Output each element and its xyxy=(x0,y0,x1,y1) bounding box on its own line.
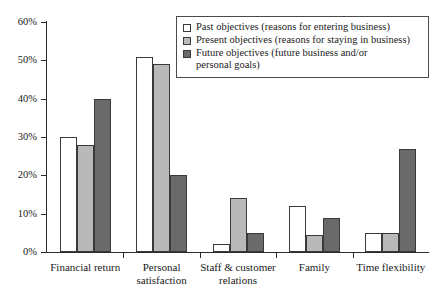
x-axis-category-label: Staff & customer relations xyxy=(200,261,276,287)
bar-group xyxy=(60,22,111,252)
legend-item: Future objectives (future business and/o… xyxy=(183,47,422,71)
y-axis-tick-label: 50% xyxy=(0,54,37,65)
legend-swatch-past-icon xyxy=(183,24,191,32)
x-axis-category-label: Personal satisfaction xyxy=(123,261,199,287)
x-axis-category-label: Time flexibility xyxy=(353,261,429,274)
bar-present xyxy=(230,198,247,252)
bar-future xyxy=(94,99,111,252)
y-axis-tick-label: 40% xyxy=(0,93,37,104)
legend-swatch-future-icon xyxy=(183,50,191,58)
y-axis-tick-label: 0% xyxy=(0,246,37,257)
y-axis-tick-label: 20% xyxy=(0,169,37,180)
bar-present xyxy=(153,64,170,252)
bar-future xyxy=(170,175,187,252)
bar-past xyxy=(213,244,230,252)
bar-future xyxy=(399,149,416,253)
legend: Past objectives (reasons for entering bu… xyxy=(176,16,429,78)
x-axis-tick-mark xyxy=(200,253,201,258)
y-axis-tick-label: 60% xyxy=(0,16,37,27)
legend-item: Past objectives (reasons for entering bu… xyxy=(183,21,422,33)
x-axis-tick-mark xyxy=(276,253,277,258)
bar-past xyxy=(289,206,306,252)
bar-present xyxy=(382,233,399,252)
legend-swatch-present-icon xyxy=(183,37,191,45)
y-axis-tick-label: 30% xyxy=(0,131,37,142)
bar-present xyxy=(306,235,323,252)
bar-future xyxy=(323,218,340,253)
bar-present xyxy=(77,145,94,252)
legend-item: Present objectives (reasons for staying … xyxy=(183,34,422,46)
bar-past xyxy=(365,233,382,252)
bar-past xyxy=(60,137,77,252)
bar-chart: 0%10%20%30%40%50%60% Financial returnPer… xyxy=(0,0,436,305)
legend-label-past: Past objectives (reasons for entering bu… xyxy=(196,21,390,33)
x-axis-category-label: Family xyxy=(276,261,352,274)
x-axis-category-label: Financial return xyxy=(47,261,123,274)
y-axis-tick-label: 10% xyxy=(0,208,37,219)
legend-label-present: Present objectives (reasons for staying … xyxy=(196,34,410,46)
legend-label-future: Future objectives (future business and/o… xyxy=(196,47,367,71)
x-axis-tick-mark xyxy=(353,253,354,258)
bar-future xyxy=(247,233,264,252)
bar-past xyxy=(136,57,153,253)
x-axis-tick-mark xyxy=(123,253,124,258)
x-axis-line xyxy=(46,252,429,253)
